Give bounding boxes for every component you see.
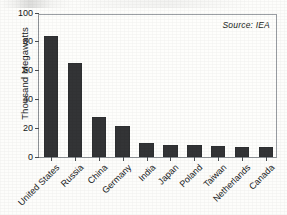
x-axis-tick-mark [266, 157, 267, 161]
y-axis-tick-mark [35, 13, 39, 14]
y-axis-tick-label: 20 [23, 123, 33, 132]
plot-area: Source: IEA 020406080100 United StatesRu… [38, 14, 277, 158]
x-axis-tick-label: United States [17, 163, 62, 208]
y-axis-tick-label: 60 [23, 66, 33, 75]
x-axis-tick-mark [147, 157, 148, 161]
bar [163, 145, 177, 157]
y-axis-tick-label: 40 [23, 94, 33, 103]
bar [211, 146, 225, 157]
x-axis-tick-mark [242, 157, 243, 161]
x-axis-tick-label: Russia [59, 163, 85, 189]
x-axis-tick-mark [218, 157, 219, 161]
y-axis-tick-label: 0 [28, 152, 33, 161]
x-axis-tick-mark [170, 157, 171, 161]
x-axis-tick-label: Canada [248, 163, 277, 192]
x-axis-tick-mark [123, 157, 124, 161]
bar-series [39, 15, 276, 157]
y-axis-tick-label: 100 [18, 8, 33, 17]
bar [68, 63, 82, 157]
x-axis-tick-label: Japan [157, 163, 181, 187]
x-axis-tick-mark [51, 157, 52, 161]
x-axis-tick-mark [99, 157, 100, 161]
bar [187, 145, 201, 157]
x-axis-tick-label: Poland [179, 163, 205, 189]
bar [139, 143, 153, 157]
bar [115, 126, 129, 157]
bar [92, 117, 106, 157]
y-axis-tick-label: 80 [23, 37, 33, 46]
x-axis-tick-mark [75, 157, 76, 161]
bar [259, 147, 273, 157]
bar [44, 36, 58, 157]
bar [235, 147, 249, 158]
x-axis-tick-label: India [137, 163, 157, 183]
bar-chart-figure: Thousand Megawatts Source: IEA 020406080… [0, 0, 287, 215]
x-axis-tick-mark [194, 157, 195, 161]
